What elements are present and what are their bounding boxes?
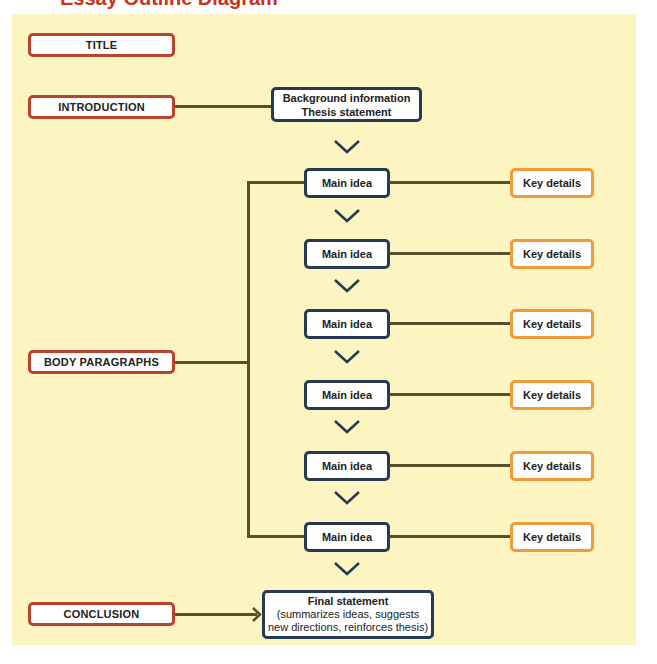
key-details-connector: [389, 464, 511, 467]
conclusion-connector: [175, 613, 257, 616]
main-idea-box: Main idea: [304, 239, 390, 269]
main-idea-box: Main idea: [304, 451, 390, 481]
body-paragraphs-section-box: BODY PARAGRAPHS: [28, 350, 175, 374]
chevron-down-icon: [334, 279, 360, 293]
final-statement-line2: (summarizes ideas, suggests: [277, 608, 419, 621]
main-idea-connector: [247, 535, 305, 538]
key-details-box: Key details: [510, 522, 594, 552]
main-idea-box: Main idea: [304, 309, 390, 339]
key-details-connector: [389, 181, 511, 184]
thesis-statement-text: Thesis statement: [302, 105, 392, 119]
chevron-down-icon: [334, 562, 360, 576]
title-section-box: TITLE: [28, 33, 175, 57]
final-statement-title: Final statement: [308, 595, 389, 608]
key-details-connector: [389, 393, 511, 396]
key-details-box: Key details: [510, 309, 594, 339]
intro-content-box: Background information Thesis statement: [271, 87, 422, 122]
final-statement-box: Final statement (summarizes ideas, sugge…: [262, 590, 434, 639]
chevron-down-icon: [334, 350, 360, 364]
chevron-down-icon: [334, 140, 360, 154]
chevron-down-icon: [334, 209, 360, 223]
background-info-text: Background information: [283, 91, 411, 105]
key-details-connector: [389, 535, 511, 538]
page-title-cut-off: Essay Outline Diagram: [60, 0, 278, 10]
main-idea-box: Main idea: [304, 380, 390, 410]
introduction-section-box: INTRODUCTION: [28, 95, 175, 119]
main-idea-box: Main idea: [304, 168, 390, 198]
intro-connector: [175, 105, 272, 108]
arrow-right-icon: [252, 607, 262, 622]
chevron-down-icon: [334, 420, 360, 434]
chevron-down-icon: [334, 491, 360, 505]
final-statement-line3: new directions, reinforces thesis): [268, 621, 428, 634]
main-idea-box: Main idea: [304, 522, 390, 552]
conclusion-section-box: CONCLUSION: [28, 602, 175, 626]
key-details-box: Key details: [510, 451, 594, 481]
key-details-connector: [389, 252, 511, 255]
key-details-box: Key details: [510, 380, 594, 410]
body-connector: [175, 361, 249, 364]
key-details-connector: [389, 322, 511, 325]
main-idea-connector: [247, 181, 305, 184]
body-bracket-vertical: [247, 181, 250, 537]
key-details-box: Key details: [510, 239, 594, 269]
key-details-box: Key details: [510, 168, 594, 198]
